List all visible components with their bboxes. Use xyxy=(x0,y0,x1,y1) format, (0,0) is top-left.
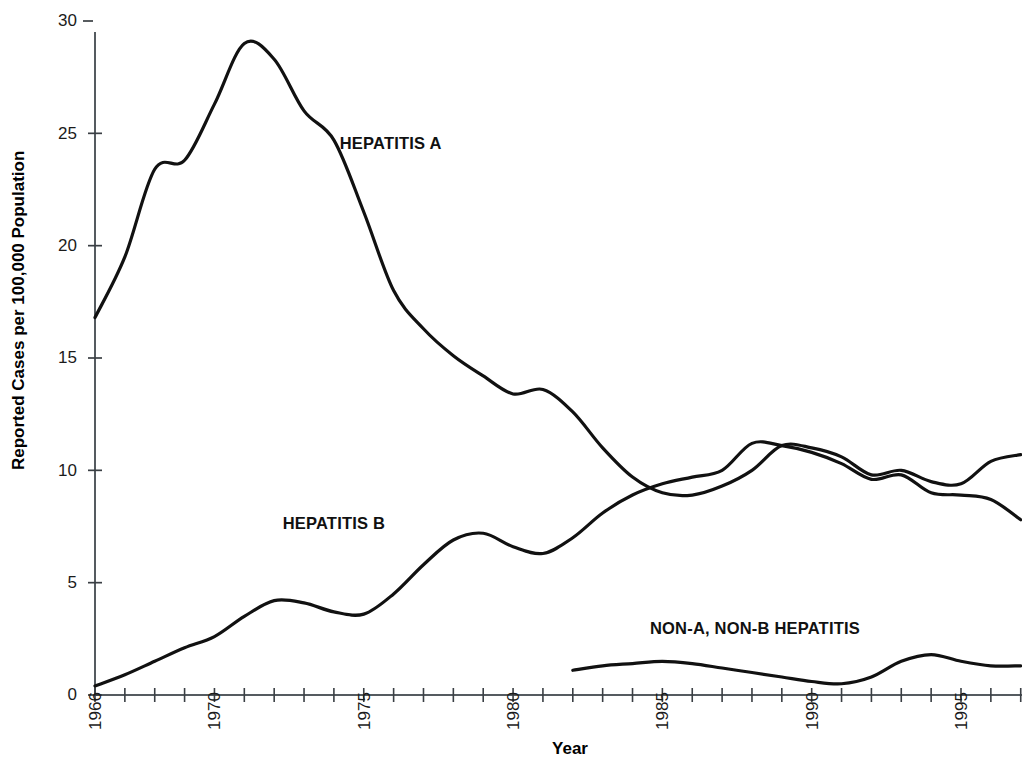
x-tick-label: 1980 xyxy=(504,692,523,730)
y-tick-label: 30 xyxy=(58,11,77,30)
hepatitis-incidence-line-chart: 051015202530 196619701975198019851990199… xyxy=(0,0,1022,760)
y-tick-label: 5 xyxy=(68,573,77,592)
y-axis-title: Reported Cases per 100,000 Population xyxy=(9,151,28,470)
series-line-non-a-non-b-hepatitis xyxy=(573,655,1021,684)
y-tick-label: 20 xyxy=(58,236,77,255)
chart-container: 051015202530 196619701975198019851990199… xyxy=(0,0,1022,760)
x-axis-title: Year xyxy=(552,739,588,758)
series-label-hepatitis-a: HEPATITIS A xyxy=(340,134,442,152)
series-annotations-group: HEPATITIS AHEPATITIS BNON-A, NON-B HEPAT… xyxy=(283,134,860,637)
y-tick-label: 25 xyxy=(58,124,77,143)
series-label-non-a-non-b-hepatitis: NON-A, NON-B HEPATITIS xyxy=(650,619,860,637)
x-tick-label: 1966 xyxy=(86,692,105,730)
series-line-hepatitis-a xyxy=(95,41,1021,495)
x-tick-label: 1995 xyxy=(952,692,971,730)
y-tick-label: 10 xyxy=(58,461,77,480)
x-tick-label: 1975 xyxy=(355,692,374,730)
y-tick-label: 0 xyxy=(68,685,77,704)
series-line-hepatitis-b xyxy=(95,442,1021,686)
x-tick-label: 1970 xyxy=(205,692,224,730)
x-tick-label: 1985 xyxy=(653,692,672,730)
series-label-hepatitis-b: HEPATITIS B xyxy=(283,514,385,532)
data-series-group xyxy=(95,41,1021,686)
y-tick-label: 15 xyxy=(58,348,77,367)
x-tick-label: 1990 xyxy=(803,692,822,730)
